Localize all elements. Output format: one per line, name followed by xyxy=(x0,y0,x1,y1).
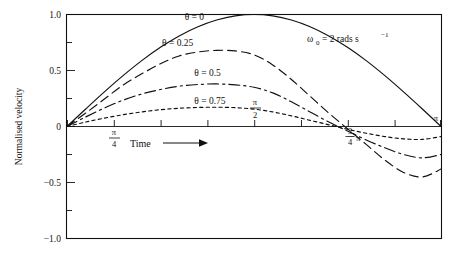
curve-theta-0-5 xyxy=(67,84,441,158)
curve-label-group: θ = 0θ = 0.25θ = 0.5θ = 0.75 xyxy=(162,12,226,106)
omega-annotation-symbol: ω xyxy=(307,34,313,44)
x-tick-pi2-denominator: 2 xyxy=(253,110,257,120)
curve-label-theta-0: θ = 0 xyxy=(185,12,205,22)
chart-svg: 1.0 0.5 0 −0.5 −1.0 Normalised velocity … xyxy=(0,0,459,256)
curve-label-theta-0-75: θ = 0.75 xyxy=(194,96,226,106)
y-axis-title: Normalised velocity xyxy=(14,88,24,166)
x-tick-pi2-numerator: π xyxy=(253,97,258,107)
x-tick-pi4-denominator: 4 xyxy=(112,139,117,149)
x-tick-pi4-numerator: π xyxy=(112,127,117,137)
right-arrow-icon xyxy=(163,139,208,147)
y-tick-label-2: 0.5 xyxy=(49,66,61,76)
omega-annotation: ω 0 = 2 rads s −1 xyxy=(307,31,389,47)
curve-label-theta-0-5: θ = 0.5 xyxy=(194,68,221,78)
omega-annotation-superscript: −1 xyxy=(381,31,389,39)
y-tick-label-4: −0.5 xyxy=(44,178,61,188)
x-axis-title: Time xyxy=(130,138,151,149)
omega-annotation-subscript: 0 xyxy=(316,39,320,47)
x-tick-3pi4-denominator: 4 xyxy=(348,137,353,147)
curve-label-theta-0-25: θ = 0.25 xyxy=(162,38,194,48)
y-tick-label-5: −1.0 xyxy=(44,234,61,244)
y-tick-label-3: 0 xyxy=(56,122,61,132)
x-axis-ticks xyxy=(68,120,441,127)
y-tick-label-1: 1.0 xyxy=(49,10,61,20)
figure-container: 1.0 0.5 0 −0.5 −1.0 Normalised velocity … xyxy=(0,0,459,256)
x-tick-label-pi-over-4: π 4 xyxy=(109,127,120,149)
